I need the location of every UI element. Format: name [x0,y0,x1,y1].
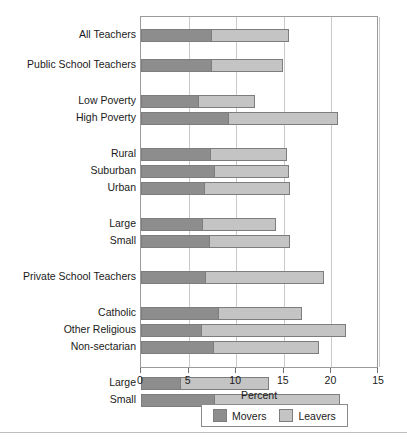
x-tick-label: 5 [185,374,191,386]
category-label: Large [2,376,136,389]
category-label: Rural [2,147,136,160]
category-label: Urban [2,181,136,194]
x-tick [283,368,284,373]
bars-layer [141,17,377,367]
category-label: Catholic [2,306,136,319]
bar-segment-movers [141,218,202,231]
category-label: Low Poverty [2,94,136,107]
legend-item-leavers: Leavers [279,409,335,422]
category-label: Private School Teachers [2,270,136,283]
bar-row [141,59,283,72]
legend-swatch-leavers [279,409,293,422]
bar-segment-leavers [211,29,288,42]
chart-page: All TeachersPublic School TeachersLow Po… [0,0,407,442]
legend-label: Movers [232,410,266,422]
legend-swatch-movers [213,409,227,422]
bar-segment-leavers [205,271,324,284]
bar-segment-leavers [218,307,302,320]
bar-segment-movers [141,307,218,320]
x-axis-tick-labels: 0510152015 [140,374,378,388]
category-label: Non-sectarian [2,340,136,353]
chart-legend: MoversLeavers [201,404,348,427]
x-tick-label: 15 [372,374,384,386]
x-tick-label: 15 [277,374,289,386]
bar-segment-movers [141,182,204,195]
bar-row [141,95,255,108]
bar-row [141,235,290,248]
legend-label: Leavers [298,410,335,422]
bar-segment-movers [141,148,210,161]
bar-row [141,271,324,284]
category-label: Other Religious [2,323,136,336]
bar-segment-movers [141,271,205,284]
bar-segment-leavers [210,148,287,161]
bar-row [141,148,287,161]
bar-row [141,165,289,178]
x-tick [330,368,331,373]
bar-segment-leavers [214,165,288,178]
category-label: Small [2,393,136,406]
x-tick-label: 20 [325,374,337,386]
bar-segment-leavers [204,182,291,195]
bar-segment-movers [141,95,198,108]
x-tick [188,368,189,373]
bar-row [141,182,290,195]
bar-segment-movers [141,341,213,354]
x-tick [377,368,378,373]
bar-segment-leavers [213,341,319,354]
bar-row [141,112,338,125]
bar-segment-leavers [209,235,291,248]
category-label: Public School Teachers [2,58,136,71]
category-label: Suburban [2,164,136,177]
x-tick [235,368,236,373]
bar-segment-leavers [202,218,276,231]
bar-segment-movers [141,29,211,42]
bar-row [141,341,319,354]
category-label: Small [2,234,136,247]
category-label: High Poverty [2,111,136,124]
bar-segment-movers [141,59,211,72]
x-tick-label: 0 [137,374,143,386]
bar-row [141,218,276,231]
footer-divider [0,432,407,433]
bar-segment-movers [141,235,209,248]
gridline-25 [379,17,380,367]
bar-segment-leavers [198,95,255,108]
bar-segment-leavers [211,59,282,72]
category-labels: All TeachersPublic School TeachersLow Po… [0,16,136,368]
bar-segment-leavers [201,324,346,337]
x-tick-label: 10 [229,374,241,386]
bar-segment-movers [141,112,228,125]
bar-row [141,324,346,337]
category-label: Large [2,217,136,230]
bar-segment-movers [141,165,214,178]
category-label: All Teachers [2,28,136,41]
x-tick [140,368,141,373]
bar-row [141,307,302,320]
bar-segment-movers [141,324,201,337]
bar-row [141,29,289,42]
x-axis-title: Percent [140,389,378,401]
plot-area [140,16,378,368]
legend-item-movers: Movers [213,409,266,422]
bar-segment-leavers [228,112,338,125]
